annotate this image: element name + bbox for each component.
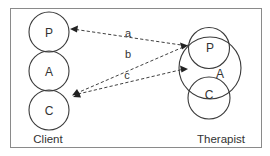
therapist-caption: Therapist — [197, 133, 246, 145]
diagram-canvas: P A C Client P A C Therapist a b — [0, 0, 270, 156]
therapist-adult-label: A — [216, 67, 224, 81]
transaction-b-label: b — [125, 48, 131, 60]
transaction-a-label: a — [125, 27, 132, 39]
transaction-c-label: c — [124, 69, 130, 81]
client-parent-label: P — [45, 26, 53, 40]
client-caption: Client — [33, 133, 63, 145]
client-adult-label: A — [45, 65, 53, 79]
client-child-label: C — [45, 104, 54, 118]
ta-diagram: P A C Client P A C Therapist a b — [0, 0, 270, 156]
therapist-child-label: C — [205, 88, 214, 102]
therapist-parent-label: P — [206, 41, 214, 55]
